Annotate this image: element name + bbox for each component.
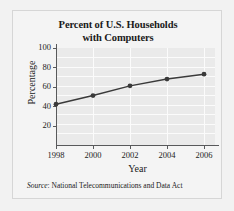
data-point: [165, 77, 170, 82]
data-point: [54, 102, 59, 107]
source-note: Source: National Telecommunications and …: [27, 181, 217, 190]
series-line: [56, 74, 204, 104]
data-point: [91, 93, 96, 98]
data-point: [128, 83, 133, 88]
data-point: [202, 72, 207, 77]
source-text: : National Telecommunications and Data A…: [48, 181, 183, 190]
chart-figure: Percent of U.S. Households with Computer…: [12, 10, 222, 199]
source-label: Source: [27, 181, 48, 190]
data-series-layer: [13, 11, 223, 200]
